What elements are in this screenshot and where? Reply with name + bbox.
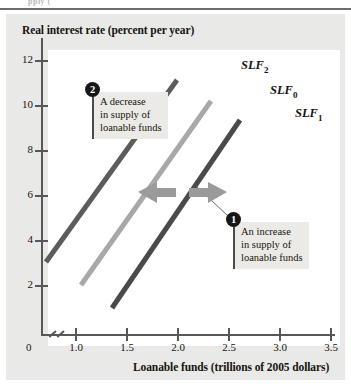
callout-decrease-badge: 2: [85, 82, 100, 97]
curve-label-slf2-sub: 2: [264, 65, 269, 75]
x-axis-caption: Loanable funds (trillions of 2005 dollar…: [133, 361, 329, 373]
callout-decrease-line-2: in supply of: [100, 108, 162, 121]
x-tick-2-0: [177, 328, 179, 341]
curve-label-slf0: SLF0: [270, 83, 297, 100]
callout-increase-line-2: in supply of: [241, 238, 303, 251]
x-tick-label-1-5: 1.5: [114, 341, 140, 353]
curve-label-slf0-text: SLF: [270, 83, 293, 97]
y-tick-label-2: 2: [17, 278, 33, 290]
y-tick-8: [35, 150, 48, 152]
figure-panel: [6, 14, 345, 380]
x-tick-3-5: [330, 328, 332, 341]
y-tick-12: [35, 60, 48, 62]
x-tick-label-1-0: 1.0: [63, 341, 89, 353]
y-tick-label-4: 4: [17, 233, 33, 245]
callout-increase-line-1: An increase: [241, 225, 303, 238]
y-tick-label-12: 12: [17, 53, 33, 65]
curve-label-slf0-sub: 0: [293, 90, 298, 100]
callout-decrease: A decrease in supply of loanable funds: [92, 92, 168, 139]
y-tick-4: [35, 240, 48, 242]
x-axis-line: [41, 334, 335, 336]
y-tick-label-10: 10: [17, 98, 33, 110]
figure-page: pply ( Real interest rate (percent per y…: [0, 0, 351, 388]
top-cropped-text-fragment: pply (: [28, 0, 51, 6]
x-tick-1-5: [126, 328, 128, 341]
y-tick-label-6: 6: [17, 188, 33, 200]
y-tick-label-8: 8: [17, 143, 33, 155]
callout-decrease-line-1: A decrease: [100, 95, 162, 108]
x-tick-3-0: [279, 328, 281, 341]
y-tick-10: [35, 105, 48, 107]
x-tick-label-2-5: 2.5: [216, 341, 242, 353]
header-rule: [0, 8, 351, 10]
callout-increase-badge: 1: [226, 212, 241, 227]
callout-increase-line-3: loanable funds: [241, 251, 303, 264]
x-tick-label-3-0: 3.0: [267, 341, 293, 353]
origin-label: 0: [26, 341, 32, 353]
curve-label-slf1: SLF1: [295, 106, 322, 123]
callout-increase: An increase in supply of loanable funds: [233, 222, 309, 269]
y-tick-2: [35, 285, 48, 287]
curve-label-slf1-text: SLF: [295, 106, 318, 120]
y-axis-caption: Real interest rate (percent per year): [22, 24, 194, 36]
curve-label-slf2-text: SLF: [241, 58, 264, 72]
x-tick-2-5: [228, 328, 230, 341]
x-tick-label-2-0: 2.0: [165, 341, 191, 353]
y-axis-line: [41, 38, 43, 335]
x-tick-1-0: [75, 328, 77, 341]
curve-label-slf2: SLF2: [241, 58, 268, 75]
y-tick-6: [35, 195, 48, 197]
x-tick-label-3-5: 3.5: [318, 341, 344, 353]
callout-decrease-line-3: loanable funds: [100, 121, 162, 134]
curve-label-slf1-sub: 1: [318, 113, 323, 123]
